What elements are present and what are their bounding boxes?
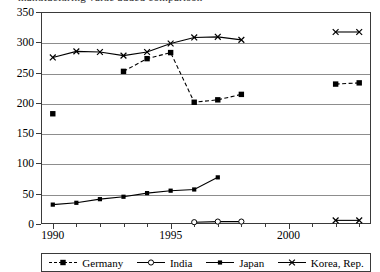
x-axis-tick <box>312 224 313 227</box>
data-point-square <box>168 50 173 55</box>
y-axis-label: 350 <box>17 7 34 17</box>
y-axis-label: 200 <box>17 98 34 108</box>
data-point-square-small <box>216 175 220 179</box>
x-axis-tick <box>218 224 219 227</box>
data-point-square-small <box>121 195 125 199</box>
x-axis-label: 1990 <box>41 229 64 241</box>
series-line-germany <box>124 53 242 103</box>
y-axis-label: 100 <box>17 158 34 168</box>
y-axis-label: 0 <box>28 219 34 229</box>
legend-label: India <box>170 257 193 269</box>
y-axis-label: 300 <box>17 37 34 47</box>
data-point-square-small <box>74 201 78 205</box>
x-axis-tick <box>124 224 125 227</box>
legend-item-germany[interactable]: Germany <box>48 257 123 269</box>
chart-title-text: manufacturing value added comparison <box>18 0 203 3</box>
x-axis-tick <box>76 224 77 227</box>
data-point-square <box>215 97 220 102</box>
legend-label: Japan <box>239 257 264 269</box>
legend-key-circle-open-icon <box>136 257 166 268</box>
y-axis: 050100150200250300350 <box>0 7 41 229</box>
legend-key-cross-icon <box>277 257 307 268</box>
data-point-square-small <box>51 203 55 207</box>
legend-item-japan[interactable]: Japan <box>205 257 264 269</box>
data-point-square <box>61 260 66 265</box>
data-point-square <box>357 80 362 85</box>
data-point-circle-open <box>148 260 153 265</box>
y-axis-label: 250 <box>17 68 34 78</box>
x-axis-tick <box>241 224 242 227</box>
legend-key-square-icon <box>48 257 78 268</box>
chart-area: 050100150200250300350 199019952000 Germa… <box>0 7 380 269</box>
legend-label: Germany <box>82 257 123 269</box>
x-axis: 199019952000 <box>41 224 371 250</box>
chart-legend: GermanyIndiaJapanKorea, Rep. <box>41 253 371 272</box>
y-axis-label: 50 <box>23 189 35 199</box>
data-point-square <box>144 56 149 61</box>
series-line-korea-rep <box>53 37 242 58</box>
chart-title-cutoff: manufacturing value added comparison <box>0 0 380 7</box>
x-axis-tick <box>359 224 360 227</box>
x-axis-label: 2000 <box>277 229 300 241</box>
x-axis-tick <box>336 224 337 227</box>
data-point-square <box>333 81 338 86</box>
data-point-square <box>192 100 197 105</box>
x-axis-label: 1995 <box>159 229 182 241</box>
x-axis-tick <box>194 224 195 227</box>
x-axis-tick <box>147 224 148 227</box>
x-axis-tick <box>100 224 101 227</box>
series-line-germany <box>336 83 360 84</box>
data-point-square-small <box>145 191 149 195</box>
data-point-square-small <box>192 187 196 191</box>
legend-item-india[interactable]: India <box>136 257 193 269</box>
data-point-square-small <box>218 260 222 264</box>
legend-key-square-small-icon <box>205 257 235 268</box>
y-axis-label: 150 <box>17 128 34 138</box>
data-point-square-small <box>98 197 102 201</box>
data-point-square-small <box>169 189 173 193</box>
legend-item-korea-rep[interactable]: Korea, Rep. <box>277 257 364 269</box>
legend-label: Korea, Rep. <box>311 257 364 269</box>
data-point-square <box>50 111 55 116</box>
data-point-square <box>239 92 244 97</box>
data-point-square <box>121 69 126 74</box>
series-layer <box>41 12 371 224</box>
x-axis-tick <box>265 224 266 227</box>
